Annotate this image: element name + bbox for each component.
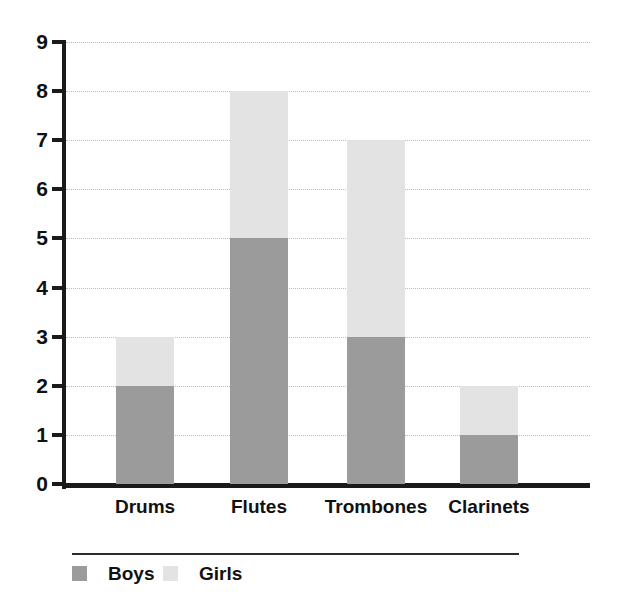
bar-group[interactable] (230, 91, 288, 484)
y-axis-tick-mark (52, 138, 64, 142)
bar-segment-boys[interactable] (230, 238, 288, 484)
gridline (66, 189, 590, 190)
bar-segment-boys[interactable] (347, 337, 405, 484)
y-axis-tick-label: 0 (4, 473, 48, 494)
y-axis-tick-mark (52, 335, 64, 339)
y-axis-tick-mark (52, 236, 64, 240)
y-axis-tick-mark (52, 482, 64, 486)
legend-swatch-girls (163, 566, 178, 581)
y-axis-line (62, 40, 66, 489)
y-axis-tick-label: 4 (4, 277, 48, 298)
gridline (66, 288, 590, 289)
legend-label-girls: Girls (199, 564, 242, 583)
y-axis-tick-label: 5 (4, 227, 48, 248)
y-axis-tick-mark (52, 433, 64, 437)
y-axis-tick-mark (52, 89, 64, 93)
gridline (66, 238, 590, 239)
legend-item-girls[interactable]: Girls (163, 562, 242, 584)
bar-segment-girls[interactable] (116, 337, 174, 386)
chart-legend: BoysGirls (0, 548, 623, 612)
y-axis-tick-mark (52, 187, 64, 191)
y-axis-tick-label: 8 (4, 80, 48, 101)
bar-segment-girls[interactable] (230, 91, 288, 238)
bar-segment-girls[interactable] (460, 386, 518, 435)
y-axis-tick-label: 9 (4, 31, 48, 52)
y-axis-tick-label: 7 (4, 129, 48, 150)
y-axis-tick-mark (52, 286, 64, 290)
legend-label-boys: Boys (108, 564, 154, 583)
y-axis-tick-label: 2 (4, 375, 48, 396)
bar-segment-boys[interactable] (116, 386, 174, 484)
legend-swatch-boys (72, 566, 87, 581)
gridline (66, 140, 590, 141)
y-axis-tick-mark (52, 40, 64, 44)
legend-divider (72, 553, 519, 555)
y-axis-tick-labels: 0123456789 (0, 0, 48, 612)
y-axis-tick-label: 3 (4, 326, 48, 347)
bar-group[interactable] (460, 386, 518, 484)
category-label-clarinets: Clarinets (419, 497, 559, 516)
y-axis-tick-label: 1 (4, 424, 48, 445)
legend-item-boys[interactable]: Boys (72, 562, 154, 584)
bar-segment-boys[interactable] (460, 435, 518, 484)
y-axis-tick-mark (52, 384, 64, 388)
bar-segment-girls[interactable] (347, 140, 405, 336)
bar-group[interactable] (116, 337, 174, 484)
stacked-bar-chart: 0123456789 DrumsFlutesTrombonesClarinets… (0, 0, 623, 612)
gridline (66, 91, 590, 92)
gridline (66, 42, 590, 43)
y-axis-tick-label: 6 (4, 178, 48, 199)
bar-group[interactable] (347, 140, 405, 484)
